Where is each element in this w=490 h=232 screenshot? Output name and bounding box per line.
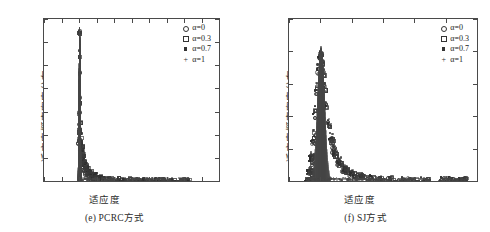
baseline-data-point — [362, 178, 364, 179]
y-tick-right — [473, 181, 477, 182]
data-point — [178, 177, 180, 179]
data-point — [343, 166, 345, 168]
data-point — [87, 169, 89, 171]
data-point — [389, 178, 391, 180]
baseline-data-point — [362, 179, 364, 181]
data-point — [122, 178, 124, 180]
data-point — [80, 157, 84, 161]
baseline-data-point — [111, 179, 113, 180]
data-point — [340, 156, 342, 158]
data-point — [320, 54, 324, 58]
data-point — [79, 164, 83, 168]
data-point — [81, 143, 83, 145]
data-point — [160, 180, 162, 182]
data-point — [420, 176, 422, 178]
data-point — [169, 178, 173, 182]
baseline-data-point — [349, 178, 351, 180]
data-point — [319, 50, 321, 52]
data-point — [306, 169, 308, 171]
baseline-data-point — [337, 178, 339, 180]
baseline-data-point — [454, 178, 457, 180]
baseline-data-point — [317, 178, 319, 180]
data-point — [332, 150, 336, 154]
data-point — [82, 165, 84, 167]
density-spine — [312, 176, 314, 181]
data-point — [78, 71, 82, 75]
data-point — [396, 179, 400, 182]
data-point — [106, 180, 108, 182]
data-point — [341, 163, 345, 167]
data-point — [76, 141, 80, 145]
data-point — [80, 157, 82, 159]
data-point — [180, 178, 182, 180]
data-point — [320, 57, 322, 59]
baseline-data-point — [331, 178, 333, 180]
data-point — [80, 136, 84, 140]
y-tick-right — [215, 88, 219, 89]
baseline-data-point — [133, 179, 136, 181]
data-point — [343, 167, 345, 169]
data-point — [441, 177, 443, 179]
density-spine — [323, 74, 325, 181]
legend-f: α=0 α=0.3 α=0.7 + α=1 — [438, 23, 471, 65]
data-point — [156, 180, 160, 182]
density-spine — [80, 68, 81, 181]
data-point — [78, 145, 82, 149]
data-point — [335, 154, 339, 158]
data-point — [103, 177, 105, 179]
data-point — [391, 175, 393, 177]
data-point — [84, 166, 86, 168]
data-point — [79, 145, 81, 147]
baseline-data-point — [136, 178, 138, 180]
data-point — [342, 170, 344, 172]
x-tick — [219, 177, 220, 181]
data-point — [81, 156, 83, 158]
baseline-data-point — [161, 179, 163, 181]
data-point — [323, 86, 325, 88]
density-spine — [316, 126, 318, 181]
y-tick — [44, 42, 48, 43]
baseline-data-point — [87, 179, 89, 181]
data-point — [311, 140, 315, 144]
data-point — [386, 176, 390, 180]
data-point — [158, 177, 160, 179]
data-point — [317, 67, 321, 71]
data-point — [77, 123, 79, 125]
data-point — [158, 180, 162, 182]
data-point — [85, 163, 87, 165]
data-point — [89, 172, 93, 176]
data-point — [86, 167, 88, 169]
data-point — [308, 155, 310, 157]
data-point — [78, 96, 82, 100]
density-spine — [81, 170, 82, 181]
baseline-data-point — [461, 178, 463, 180]
data-point — [83, 166, 85, 168]
baseline-data-point — [89, 177, 91, 179]
density-spine — [311, 178, 313, 181]
data-point — [170, 178, 174, 182]
data-point — [86, 166, 88, 168]
baseline-data-point — [106, 179, 108, 181]
data-point — [175, 180, 179, 182]
data-point — [343, 164, 345, 166]
baseline-data-point — [423, 178, 424, 180]
data-point — [370, 175, 372, 177]
data-point — [307, 180, 311, 182]
baseline-data-point — [333, 179, 335, 181]
data-point — [78, 121, 82, 125]
data-point — [123, 178, 127, 182]
density-spine — [316, 112, 318, 181]
data-point — [330, 138, 334, 142]
data-point — [312, 129, 314, 131]
baseline-data-point — [341, 178, 342, 180]
data-point — [310, 172, 314, 176]
baseline-data-point — [336, 178, 338, 180]
data-point — [154, 178, 158, 182]
data-point — [146, 177, 148, 179]
data-point — [80, 133, 82, 135]
data-point — [343, 167, 345, 169]
baseline-data-point — [316, 178, 318, 180]
data-point — [83, 161, 87, 165]
legend-label: α=0.3 — [450, 35, 469, 43]
data-point — [174, 180, 178, 182]
